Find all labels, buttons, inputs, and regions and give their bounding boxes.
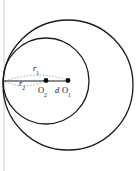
label-d-base: d xyxy=(55,85,59,95)
center-o2-dot xyxy=(44,78,49,83)
label-r2: r2 xyxy=(19,79,25,90)
label-r1-subscript: 1 xyxy=(36,70,39,76)
center-o1-dot xyxy=(66,78,71,83)
label-o1: O1 xyxy=(62,86,71,97)
r1-arc-upper xyxy=(5,75,68,81)
label-o2-subscript: 2 xyxy=(44,92,47,98)
label-r1: r1 xyxy=(33,64,39,75)
label-o1-subscript: 1 xyxy=(68,92,71,98)
label-o2: O2 xyxy=(38,86,47,97)
label-r2-subscript: 2 xyxy=(22,85,25,91)
geometry-figure: r1 r2 O2 d O1 xyxy=(0,0,136,171)
label-d: d xyxy=(55,86,59,95)
